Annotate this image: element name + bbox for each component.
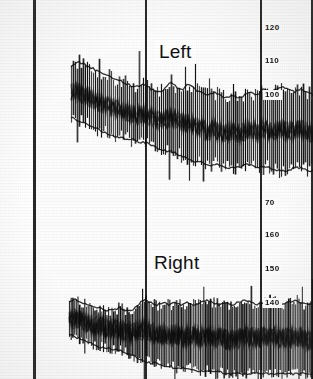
y-tick-lower-160: 160 [263,230,282,240]
panel-label-right: Right [150,251,203,275]
gridline-vertical [311,0,313,379]
gridline-vertical [260,0,262,379]
y-tick-lower-150: 150 [263,264,282,274]
y-tick-upper-100: 100 [263,90,282,100]
panel-label-left: Left [155,40,196,64]
y-tick-upper-70: 70 [263,198,277,208]
y-tick-upper-120: 120 [263,23,282,33]
gridline-vertical [145,0,147,379]
y-tick-upper-110: 110 [263,56,281,66]
y-tick-lower-140: 140 [263,298,282,308]
paper-left-margin [0,0,33,379]
strip-chart-recording: Left Right 12011010070160150140 [0,0,313,379]
gridline-vertical [33,0,36,379]
